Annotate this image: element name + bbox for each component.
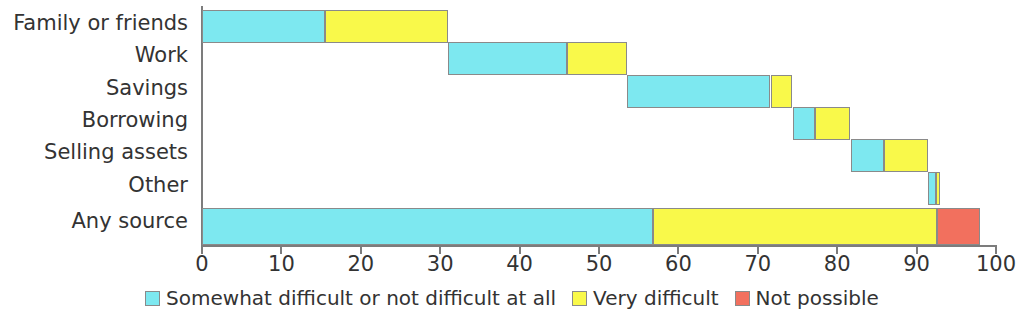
legend-item[interactable]: Very difficult [572,288,719,308]
category-label: Borrowing [82,110,188,131]
category-label: Any source [71,211,188,232]
legend-label: Somewhat difficult or not difficult at a… [166,288,556,308]
chart-legend: Somewhat difficult or not difficult at a… [0,288,1024,308]
category-label: Work [135,45,188,66]
legend-swatch-icon [572,291,587,306]
bar-segment [567,42,627,75]
bar-segment [653,208,937,245]
category-label: Selling assets [44,142,188,163]
category-label: Family or friends [13,13,188,34]
bar-segment [627,75,771,108]
stacked-bar-chart: Family or friendsWorkSavingsBorrowingSel… [0,0,1024,323]
bar-segment [936,172,941,205]
bar-row [202,42,996,75]
bar-segment [793,107,815,140]
x-axis-tick-label: 0 [195,254,208,275]
bar-segment [771,75,792,108]
x-axis-tick-label: 30 [427,254,454,275]
bar-row [202,107,996,140]
legend-item[interactable]: Somewhat difficult or not difficult at a… [145,288,556,308]
x-axis-tick-label: 20 [347,254,374,275]
legend-item[interactable]: Not possible [735,288,879,308]
x-axis-tick-label: 80 [824,254,851,275]
bar-row [202,139,996,172]
bar-segment [815,107,850,140]
bar-segment [448,42,567,75]
x-axis-tick-label: 70 [744,254,771,275]
category-axis-labels: Family or friendsWorkSavingsBorrowingSel… [0,0,196,244]
category-label: Savings [106,78,188,99]
legend-swatch-icon [735,291,750,306]
category-label: Other [128,175,188,196]
x-axis-tick-label: 60 [665,254,692,275]
bar-segment [937,208,980,245]
bar-row [202,75,996,108]
legend-label: Very difficult [593,288,719,308]
bar-segment [202,10,325,43]
bar-row [202,172,996,205]
plot-area [202,6,996,244]
x-axis-tick-label: 40 [506,254,533,275]
bar-segment [202,208,653,245]
x-axis-tick-label: 100 [976,254,1016,275]
bar-segment [851,139,884,172]
x-axis-tick-label: 10 [268,254,295,275]
legend-label: Not possible [756,288,879,308]
bar-segment [325,10,448,43]
x-axis-tick-label: 90 [903,254,930,275]
bar-row [202,208,996,245]
legend-swatch-icon [145,291,160,306]
bar-segment [928,172,936,205]
bar-row [202,10,996,43]
x-axis-tick-label: 50 [586,254,613,275]
bar-segment [884,139,928,172]
